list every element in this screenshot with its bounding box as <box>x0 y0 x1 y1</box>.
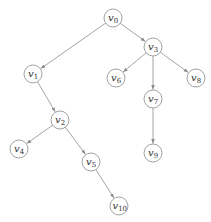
edge-v0-v3 <box>120 23 145 41</box>
node-v2: v2 <box>51 111 69 129</box>
tree-diagram: v0v1v2v3v4v5v6v7v8v9v10 <box>0 0 211 222</box>
edge-v1-v2 <box>38 82 56 112</box>
node-v7: v7 <box>144 90 162 108</box>
node-v8: v8 <box>187 69 205 87</box>
edges-layer <box>27 23 189 198</box>
edge-v3-v6 <box>123 53 146 72</box>
node-v3: v3 <box>144 38 162 56</box>
edge-v2-v4 <box>27 125 53 143</box>
edge-v5-v10 <box>96 170 114 198</box>
node-v9: v9 <box>144 144 162 162</box>
edge-v0-v1 <box>41 23 106 68</box>
node-v10: v10 <box>110 197 128 215</box>
edge-v3-v8 <box>160 52 188 72</box>
node-v1: v1 <box>24 65 42 83</box>
edge-v2-v5 <box>65 127 85 154</box>
node-v4: v4 <box>10 140 28 158</box>
node-v6: v6 <box>107 69 125 87</box>
node-v5: v5 <box>82 153 100 171</box>
nodes-layer: v0v1v2v3v4v5v6v7v8v9v10 <box>10 9 205 215</box>
node-v0: v0 <box>104 9 122 27</box>
